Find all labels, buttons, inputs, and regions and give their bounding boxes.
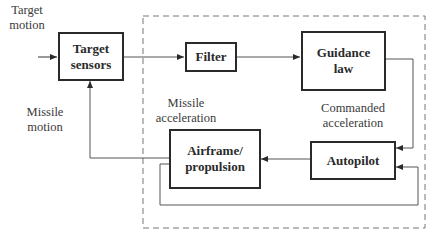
missile-motion-label: Missile motion — [20, 105, 70, 135]
target-sensors-label: Target sensors — [71, 41, 111, 73]
airframe-propulsion-block: Airframe/ propulsion — [169, 129, 261, 189]
guidance-law-label: Guidance law — [317, 45, 370, 77]
autopilot-block: Autopilot — [310, 141, 396, 180]
autopilot-label: Autopilot — [327, 153, 380, 169]
commanded-acceleration-label: Commanded acceleration — [310, 101, 396, 131]
guidance-law-block: Guidance law — [301, 31, 386, 91]
missile-acceleration-label: Missile acceleration — [148, 96, 224, 126]
filter-block: Filter — [185, 42, 237, 72]
target-sensors-block: Target sensors — [58, 32, 124, 81]
target-motion-label: Target motion — [2, 3, 52, 33]
filter-label: Filter — [195, 49, 226, 65]
airframe-propulsion-label: Airframe/ propulsion — [185, 143, 245, 175]
